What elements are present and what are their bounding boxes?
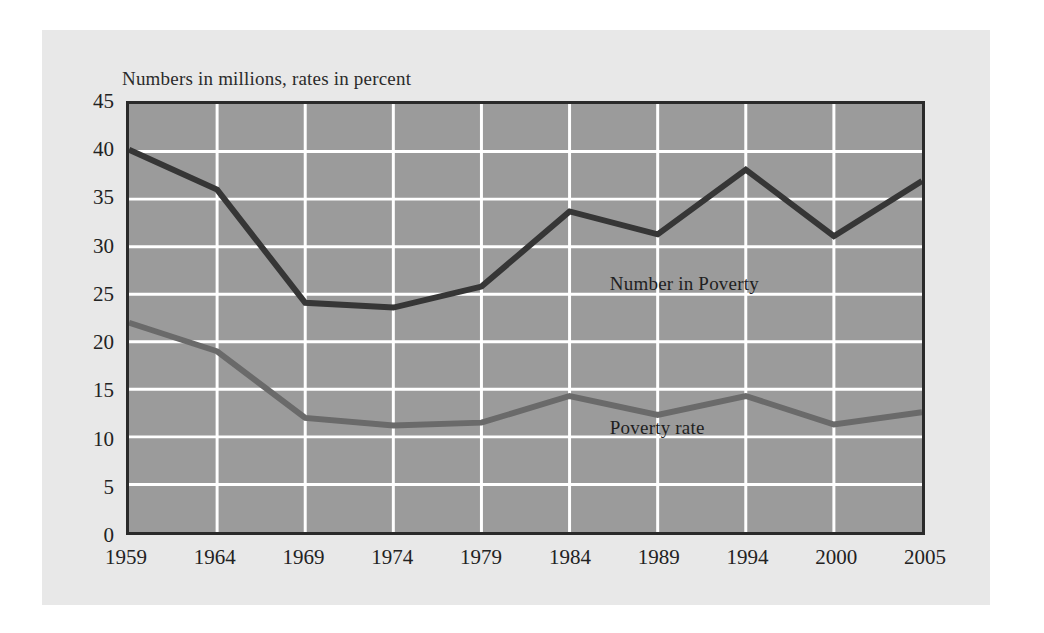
y-tick-label: 10: [62, 429, 114, 450]
chart-title: Numbers in millions, rates in percent: [122, 68, 411, 90]
x-tick-label: 1964: [175, 547, 255, 568]
horizontal-gridlines: [129, 152, 922, 485]
series-line-number-in-poverty: [129, 150, 922, 308]
series-lines: [129, 150, 922, 426]
x-tick-label: 1994: [707, 547, 787, 568]
vertical-gridlines: [217, 104, 834, 532]
x-tick-label: 1984: [530, 547, 610, 568]
x-tick-label: 1969: [264, 547, 344, 568]
y-tick-label: 30: [62, 236, 114, 257]
x-tick-label: 2005: [885, 547, 965, 568]
y-tick-label: 25: [62, 284, 114, 305]
figure-panel: Numbers in millions, rates in percent 05…: [42, 30, 990, 605]
y-tick-label: 5: [62, 477, 114, 498]
y-tick-label: 0: [62, 525, 114, 546]
x-tick-label: 1989: [619, 547, 699, 568]
y-tick-label: 45: [62, 91, 114, 112]
x-tick-label: 1974: [352, 547, 432, 568]
series-line-poverty-rate: [129, 323, 922, 426]
x-tick-label: 2000: [796, 547, 876, 568]
series-annotation-number-in-poverty: Number in Poverty: [610, 273, 759, 295]
plot-area: [126, 101, 925, 535]
y-tick-label: 40: [62, 139, 114, 160]
y-tick-label: 15: [62, 380, 114, 401]
series-annotation-poverty-rate: Poverty rate: [610, 417, 705, 439]
chart-svg: [129, 104, 922, 532]
x-tick-label: 1979: [441, 547, 521, 568]
x-tick-label: 1959: [86, 547, 166, 568]
y-tick-label: 20: [62, 332, 114, 353]
y-tick-label: 35: [62, 187, 114, 208]
